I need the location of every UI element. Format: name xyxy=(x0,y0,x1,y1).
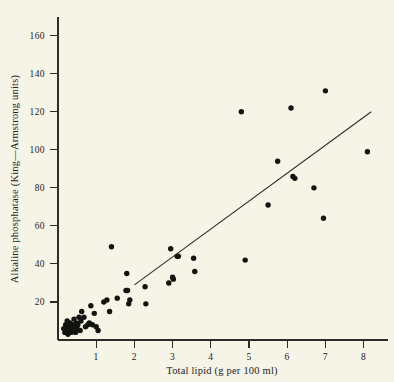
data-point xyxy=(323,88,328,93)
data-point xyxy=(242,257,247,262)
data-point xyxy=(166,280,171,285)
data-point xyxy=(77,328,82,333)
data-point xyxy=(127,297,132,302)
data-point xyxy=(275,159,280,164)
scatter-plot-figure: 20406080100120140160 Alkaline phosphatas… xyxy=(0,0,394,382)
plot-background xyxy=(0,0,394,382)
y-tick-label: 80 xyxy=(35,183,45,193)
x-tick-label: 4 xyxy=(208,352,213,362)
data-point xyxy=(107,309,112,314)
y-tick-label: 120 xyxy=(30,107,45,117)
data-point xyxy=(365,149,370,154)
data-point xyxy=(104,297,109,302)
data-point xyxy=(142,284,147,289)
data-point xyxy=(288,105,293,110)
data-point xyxy=(95,328,100,333)
y-axis-title: Alkaline phosphatase (King—Armstrong uni… xyxy=(9,75,21,284)
data-point xyxy=(321,216,326,221)
x-tick-label: 7 xyxy=(323,352,328,362)
data-point xyxy=(88,303,93,308)
plot-canvas: 20406080100120140160 Alkaline phosphatas… xyxy=(0,0,394,382)
y-tick-label: 100 xyxy=(30,145,45,155)
data-point xyxy=(168,246,173,251)
data-point xyxy=(125,288,130,293)
x-tick-label: 3 xyxy=(170,352,175,362)
data-point xyxy=(191,256,196,261)
y-tick-label: 160 xyxy=(30,31,45,41)
x-tick-label: 6 xyxy=(285,352,290,362)
data-point xyxy=(192,269,197,274)
data-point xyxy=(115,295,120,300)
y-tick-label: 20 xyxy=(35,297,45,307)
x-tick-label: 2 xyxy=(132,352,137,362)
data-point xyxy=(92,311,97,316)
x-tick-label: 8 xyxy=(361,352,366,362)
data-point xyxy=(79,309,84,314)
data-point xyxy=(109,244,114,249)
data-point xyxy=(265,202,270,207)
x-tick-label: 1 xyxy=(94,352,99,362)
y-tick-label: 60 xyxy=(35,221,45,231)
x-tick-label: 5 xyxy=(246,352,251,362)
data-point xyxy=(143,301,148,306)
data-point xyxy=(171,276,176,281)
y-tick-label: 140 xyxy=(30,69,45,79)
data-point xyxy=(239,109,244,114)
data-point xyxy=(81,314,86,319)
y-tick-label: 40 xyxy=(35,259,45,269)
data-point xyxy=(311,185,316,190)
data-point xyxy=(124,271,129,276)
x-axis-title: Total lipid (g per 100 ml) xyxy=(166,365,278,377)
data-point xyxy=(292,176,297,181)
